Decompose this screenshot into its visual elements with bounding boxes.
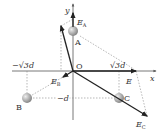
- charge-a-label: A: [74, 38, 81, 47]
- field-c-label: EC: [135, 120, 146, 130]
- origin-label: O: [76, 62, 83, 71]
- y-axis-label: y: [64, 6, 70, 15]
- charge-a: [68, 26, 78, 36]
- x-axis-label: x: [150, 74, 155, 83]
- neg-sqrt3d-label: −√3d: [12, 61, 34, 70]
- electric-field-diagram: y x O A B C EA EB EC E −√3d √3d −d: [0, 0, 164, 131]
- field-a-label: EA: [76, 18, 87, 28]
- field-c-arrow: [73, 71, 147, 116]
- field-b-label: EB: [50, 77, 61, 87]
- neg-d-label: −d: [57, 94, 69, 103]
- field-total-label: E: [125, 77, 132, 86]
- charge-b: [22, 93, 32, 103]
- charge-c-label: C: [124, 94, 130, 103]
- pos-sqrt3d-label: √3d: [110, 61, 125, 70]
- charge-b-label: B: [16, 103, 22, 112]
- field-b-arrow: [63, 71, 73, 77]
